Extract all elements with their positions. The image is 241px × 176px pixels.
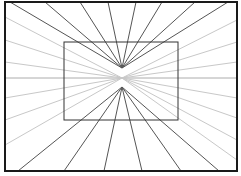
upper-dark-ray <box>122 2 162 68</box>
dark-ray-group <box>10 2 228 171</box>
outer-frame <box>5 2 237 171</box>
light-ray <box>122 78 237 140</box>
upper-dark-ray <box>122 2 136 68</box>
light-ray <box>122 20 237 78</box>
diagram-canvas <box>0 0 241 176</box>
upper-dark-ray <box>10 2 122 68</box>
lower-dark-ray <box>122 87 142 171</box>
light-ray <box>122 78 237 98</box>
perspective-illusion-figure <box>0 0 241 176</box>
lower-dark-ray <box>122 87 219 171</box>
inner-rectangle <box>64 42 178 120</box>
light-ray <box>122 78 237 160</box>
upper-dark-ray <box>122 2 228 68</box>
upper-dark-ray <box>80 2 122 68</box>
light-ray <box>122 62 237 78</box>
light-ray <box>122 42 237 78</box>
